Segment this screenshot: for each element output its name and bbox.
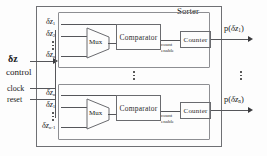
channel-n-output-label: p(δzn) [224,95,244,104]
channel-n-comparator-label: Comparator [117,96,160,120]
channel-n-mux-input-1-label: δz1 [46,101,55,110]
channel-1-output-label: p(δz1) [224,24,244,33]
dz-control-wire [30,61,55,62]
channel-1-output-arrowhead [248,36,253,42]
channel-1-count-enable-label: count enable [161,42,174,54]
channel-1-comparator: Comparator [116,24,161,50]
channel-1-count-enable-wire [161,40,180,41]
channel-1-mux-in1-wire [61,36,87,37]
channel-n-mux-input-2-label: δzn-1 [42,122,55,131]
channel-1-mux-in2-wire [61,56,87,57]
channel-n-count-enable-label: count enable [161,113,174,125]
channel-1-mux-input-1-label: δz2 [46,30,55,39]
channel-n-mux-input-ellipsis [52,112,54,121]
input-clock-label: clock [7,85,24,93]
channel-n-mux-in2-wire [61,127,87,128]
channel-ellipsis-inner [133,71,135,80]
channel-n-bypass-wire-h [61,95,116,96]
channel-n-mux-in1-wire [61,107,87,108]
channel-1-counter: Counter [180,31,211,48]
input-control-label: control [6,68,32,77]
channel-n-output-wire [211,110,250,111]
channel-n-count-enable-wire [161,111,180,112]
channel-ellipsis-outer [240,71,242,80]
channel-1-comparator-label: Comparator [117,25,160,49]
input-dz-label: δz [8,54,18,64]
channel-1-mux-input-0-label: δz1 [46,18,55,27]
channel-n-mux-label: Mux [89,110,102,117]
channel-1-bypass-wire-h [61,24,116,25]
channel-1-counter-label: Counter [181,32,210,47]
channel-n-output-arrowhead [248,107,253,113]
channel-1-output-wire [211,39,250,40]
diagram-canvas: Sorter δz control clock reset δz1 δz2 δz… [0,0,267,156]
channel-n-comparator: Comparator [116,95,161,121]
channel-n-mux-input-0-label: δzn [46,89,55,98]
channel-1-mux-label: Mux [89,39,102,46]
channel-n-counter: Counter [180,102,211,119]
input-reset-label: reset [7,96,22,104]
channel-n-counter-label: Counter [181,103,210,118]
channel-1-mux-input-ellipsis [52,41,54,50]
channel-1-mux-input-2-label: δzn [46,51,55,60]
